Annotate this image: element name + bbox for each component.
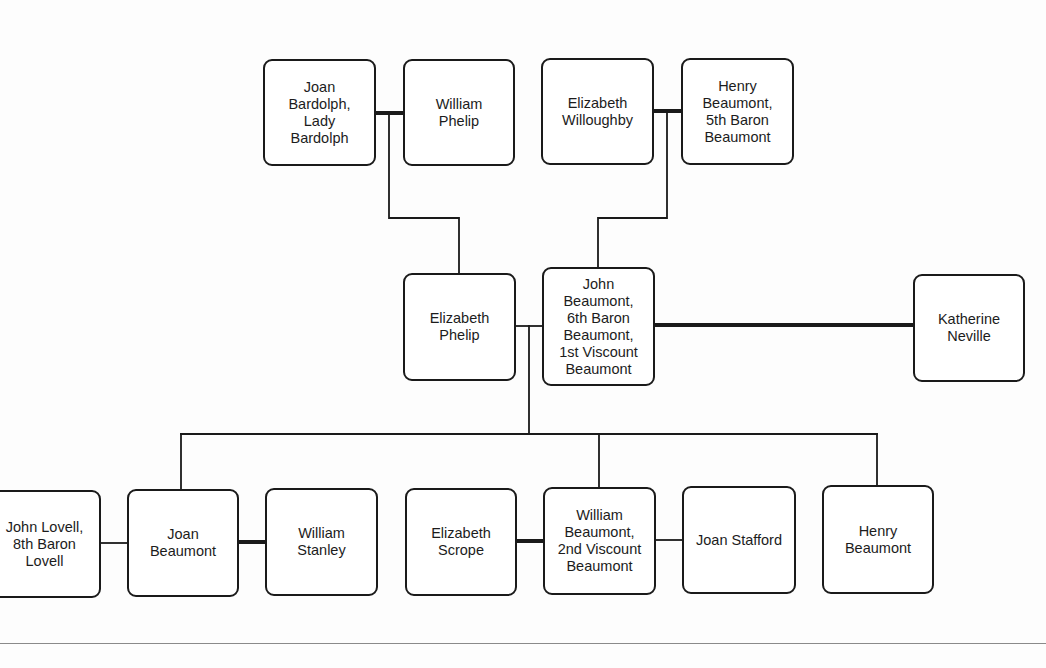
person-box-elizabeth-phelip[interactable]: Elizabeth Phelip — [403, 273, 516, 381]
person-name: Joan Stafford — [696, 532, 782, 549]
person-box-william-stanley[interactable]: William Stanley — [265, 488, 378, 596]
person-box-john-beaumont-1st-viscount[interactable]: John Beaumont, 6th Baron Beaumont, 1st V… — [542, 267, 655, 386]
person-box-william-phelip[interactable]: William Phelip — [403, 59, 515, 166]
horizontal-rule — [0, 643, 1046, 644]
person-name: Katherine Neville — [938, 311, 1000, 345]
person-box-elizabeth-willoughby[interactable]: Elizabeth Willoughby — [541, 58, 654, 165]
person-box-joan-bardolph[interactable]: Joan Bardolph, Lady Bardolph — [263, 59, 376, 166]
person-name: Henry Beaumont — [845, 523, 911, 557]
person-name: Henry Beaumont, 5th Baron Beaumont — [702, 78, 772, 146]
person-box-katherine-neville[interactable]: Katherine Neville — [913, 274, 1025, 382]
person-name: William Phelip — [436, 96, 483, 130]
family-tree-diagram: Joan Bardolph, Lady BardolphWilliam Phel… — [0, 0, 1046, 668]
person-name: William Stanley — [297, 525, 345, 559]
person-box-elizabeth-scrope[interactable]: Elizabeth Scrope — [405, 488, 517, 596]
person-box-joan-beaumont[interactable]: Joan Beaumont — [127, 489, 239, 597]
person-name: Joan Beaumont — [150, 526, 216, 560]
person-name: Elizabeth Scrope — [431, 525, 491, 559]
person-box-joan-stafford[interactable]: Joan Stafford — [682, 486, 796, 594]
person-box-henry-beaumont[interactable]: Henry Beaumont — [822, 485, 934, 594]
person-box-henry-beaumont-5th-baron[interactable]: Henry Beaumont, 5th Baron Beaumont — [681, 58, 794, 165]
person-name: Elizabeth Willoughby — [562, 95, 633, 129]
person-name: Joan Bardolph, Lady Bardolph — [288, 79, 350, 147]
person-name: Elizabeth Phelip — [430, 310, 490, 344]
person-box-william-beaumont-2nd-viscount[interactable]: William Beaumont, 2nd Viscount Beaumont — [543, 487, 656, 595]
person-box-john-lovell-8th-baron[interactable]: John Lovell, 8th Baron Lovell — [0, 490, 101, 598]
person-name: John Lovell, 8th Baron Lovell — [6, 519, 83, 570]
person-name: John Beaumont, 6th Baron Beaumont, 1st V… — [559, 276, 638, 378]
person-name: William Beaumont, 2nd Viscount Beaumont — [558, 507, 642, 575]
